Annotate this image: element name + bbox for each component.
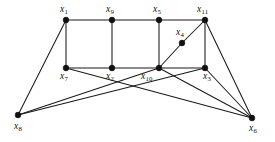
graph-vertex-x4 — [179, 40, 185, 46]
vertex-label-base-x4: x — [176, 27, 180, 37]
vertex-label-base-x3: x — [203, 71, 207, 81]
vertex-label-x9: x9 — [106, 5, 114, 15]
graph-edge-x11-x6 — [205, 20, 252, 118]
graph-edge-x1-x8 — [18, 20, 66, 115]
graph-diagram: x1x9x5x11x4x7x2x10x3x8x6 — [0, 0, 275, 142]
vertex-label-base-x5: x — [153, 4, 157, 14]
graph-vertex-x10 — [156, 65, 162, 71]
vertex-layer — [15, 17, 255, 121]
vertex-label-index-x9: 9 — [111, 8, 114, 15]
vertex-label-x4: x4 — [176, 28, 184, 38]
vertex-label-index-x4: 4 — [181, 31, 184, 38]
graph-vertex-x11 — [202, 17, 208, 23]
vertex-label-base-x8: x — [14, 121, 18, 131]
vertex-label-index-x5: 5 — [158, 8, 161, 15]
graph-vertex-x8 — [15, 112, 21, 118]
graph-vertex-x1 — [63, 17, 69, 23]
vertex-label-x8: x8 — [14, 122, 22, 132]
vertex-label-base-x11: x — [197, 4, 201, 14]
vertex-label-base-x6: x — [249, 123, 253, 133]
graph-edge-x4-x11 — [182, 20, 205, 43]
graph-canvas — [0, 0, 275, 142]
vertex-label-base-x1: x — [60, 4, 64, 14]
vertex-label-index-x1: 1 — [65, 8, 68, 15]
vertex-label-x2: x2 — [106, 72, 114, 82]
vertex-label-index-x11: 11 — [202, 8, 209, 15]
graph-edge-x8-x10 — [18, 68, 159, 115]
vertex-label-index-x6: 6 — [254, 127, 257, 134]
vertex-label-base-x10: x — [141, 71, 145, 81]
vertex-label-base-x7: x — [60, 71, 64, 81]
graph-edge-x10-x4 — [159, 43, 182, 68]
graph-edge-x3-x6 — [205, 68, 252, 118]
graph-vertex-x5 — [156, 17, 162, 23]
vertex-label-x1: x1 — [60, 5, 68, 15]
vertex-label-x11: x11 — [197, 5, 208, 15]
vertex-label-index-x2: 2 — [111, 75, 114, 82]
edge-layer — [18, 20, 252, 118]
vertex-label-x7: x7 — [60, 72, 68, 82]
vertex-label-index-x7: 7 — [65, 75, 68, 82]
graph-vertex-x9 — [109, 17, 115, 23]
vertex-label-x10: x10 — [141, 72, 152, 82]
vertex-label-x5: x5 — [153, 5, 161, 15]
vertex-label-base-x2: x — [106, 71, 110, 81]
vertex-label-base-x9: x — [106, 4, 110, 14]
vertex-label-index-x3: 3 — [208, 75, 211, 82]
vertex-label-x3: x3 — [203, 72, 211, 82]
vertex-label-x6: x6 — [249, 124, 257, 134]
graph-edge-x7-x6 — [66, 68, 252, 118]
vertex-label-index-x10: 10 — [146, 75, 153, 82]
vertex-label-index-x8: 8 — [19, 125, 22, 132]
graph-vertex-x6 — [249, 115, 255, 121]
